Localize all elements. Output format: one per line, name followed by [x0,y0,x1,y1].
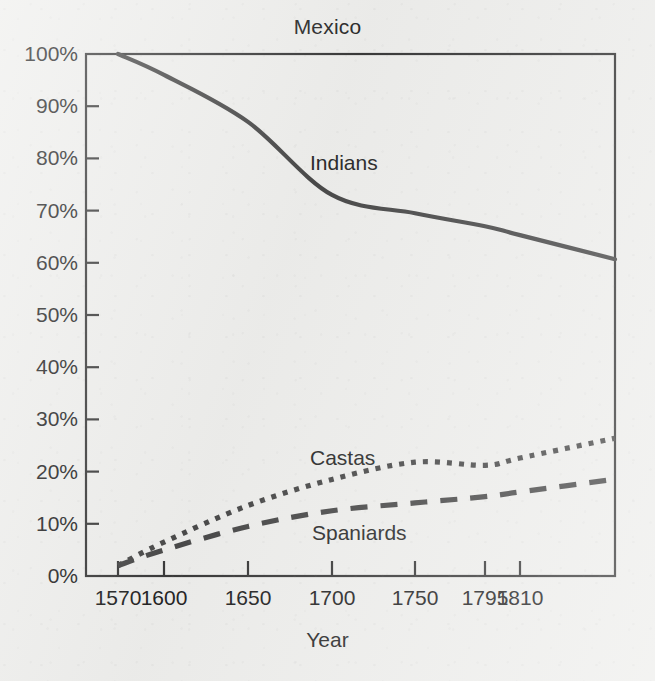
x-axis-tick-label: 1750 [392,586,439,610]
x-axis-title: Year [0,628,655,652]
chart-figure: Mexico 0%10%20%30%40%50%60%70%80%90%100%… [0,0,655,681]
x-axis-tick-label: 1650 [225,586,272,610]
x-axis-tick-label: 1600 [141,586,188,610]
x-axis-tick-label: 1700 [309,586,356,610]
y-axis-tick-label: 30% [0,407,78,431]
y-axis-tick-label: 40% [0,355,78,379]
y-axis-tick-label: 100% [0,42,78,66]
plot-frame [86,54,615,576]
y-axis-tick-label: 80% [0,146,78,170]
y-axis-tick-label: 70% [0,199,78,223]
series-label-indians: Indians [310,151,378,175]
x-axis-tick-label: 1810 [497,586,544,610]
series-label-castas: Castas [310,446,375,470]
series-label-spaniards: Spaniards [312,521,407,545]
y-axis-tick-label: 20% [0,460,78,484]
y-axis-tick-label: 90% [0,94,78,118]
y-axis-tick-label: 10% [0,512,78,536]
y-axis-tick-label: 50% [0,303,78,327]
plot-area [0,0,655,681]
x-axis-tick-label: 1570 [95,586,142,610]
y-axis-tick-label: 0% [0,564,78,588]
y-axis-tick-label: 60% [0,251,78,275]
